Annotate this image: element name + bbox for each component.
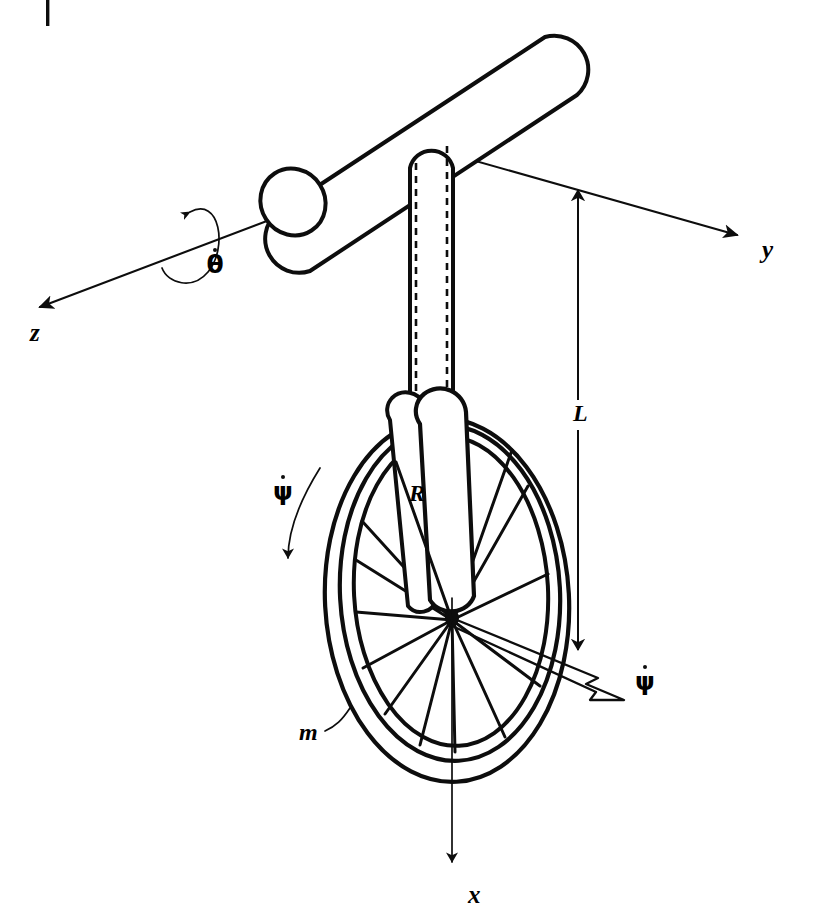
psi-dot-vector-label: ψ (632, 660, 658, 696)
wheel-assembly (316, 388, 579, 788)
dimension-label-L: L (570, 400, 591, 427)
vertical-post (410, 146, 453, 409)
axis-label-y: y (762, 236, 773, 264)
dimension-label-R: R (409, 480, 425, 507)
figure-canvas (0, 0, 824, 924)
psi-dot-vector-arrow (450, 618, 624, 700)
axis-label-z: z (30, 319, 40, 347)
theta-dot-label: θ (202, 243, 228, 279)
wheel-fork (387, 388, 474, 612)
psi-dot-arc-label: ψ (270, 470, 296, 506)
mechanics-figure: z y x θ ψ ψ L R m (0, 0, 824, 924)
axis-label-x: x (468, 881, 481, 909)
mass-callout-leader (325, 708, 350, 731)
page-trim-mark (46, 0, 49, 26)
mass-label-m: m (299, 719, 318, 746)
